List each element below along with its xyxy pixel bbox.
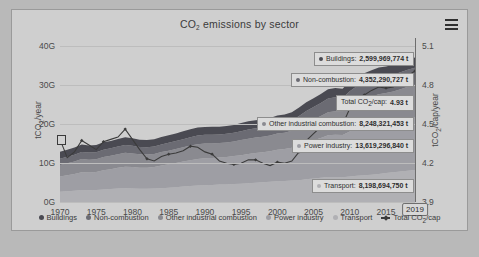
- legend-swatch: [333, 215, 338, 220]
- tooltip-value: 4,352,290,727 t: [359, 76, 408, 84]
- tooltip-value: 2,599,969,774 t: [359, 55, 408, 63]
- chart-title-subscript: 2: [196, 24, 200, 31]
- tooltip-transport: Transport:8,198,694,750 t: [312, 179, 414, 193]
- legend-swatch: [381, 215, 390, 220]
- left-axis-tick: 40G: [39, 41, 55, 51]
- tooltip-label: Total CO2/cap:: [341, 98, 387, 108]
- chart-title-post: emissions by sector: [200, 18, 299, 30]
- hamburger-menu-icon[interactable]: [445, 19, 458, 30]
- legend-item-other-industrial-combustion[interactable]: Other industrial combustion: [158, 213, 257, 222]
- legend-item-buildings[interactable]: Buildings: [39, 213, 77, 222]
- tooltip-color-dot: [297, 144, 301, 148]
- legend-label: Other industrial combustion: [166, 213, 257, 222]
- right-axis-tick: 4.5: [422, 119, 434, 129]
- left-axis-tick: 0G: [44, 197, 55, 207]
- tooltip-label: Other industrial combustion:: [269, 120, 356, 128]
- legend-item-total-co2-cap[interactable]: Total CO2/cap: [381, 213, 440, 224]
- tooltip-label: Non-combustion:: [303, 76, 356, 84]
- tooltip-power-industry: Power industry:13,619,296,840 t: [292, 139, 414, 153]
- tooltip-label: Power industry:: [304, 142, 352, 150]
- tooltip-color-dot: [262, 122, 266, 126]
- tooltip-value: 4.93 t: [390, 99, 408, 107]
- tooltip-label: Transport:: [324, 182, 356, 190]
- right-axis-tick: 5.1: [422, 41, 434, 51]
- chart-title: CO2 emissions by sector: [12, 18, 467, 30]
- gridline: [60, 202, 415, 203]
- legend-swatch: [266, 215, 271, 220]
- chart-title-pre: CO: [180, 18, 196, 30]
- legend-label: Non-combustion: [94, 213, 149, 222]
- chart-card: CO2 emissions by sector tCO2/year tCO2/c…: [11, 9, 468, 231]
- tooltip-label: Buildings:: [326, 55, 356, 63]
- series-start-marker: [57, 135, 66, 145]
- legend-label: Transport: [341, 213, 373, 222]
- legend-item-power-industry[interactable]: Power industry: [266, 213, 324, 222]
- plot-area[interactable]: 40G5.130G4.820G4.510G4.20G3.919701975198…: [60, 38, 415, 202]
- legend-label: Buildings: [47, 213, 77, 222]
- left-axis-tick: 10G: [39, 158, 55, 168]
- tooltip-non-combustion: Non-combustion:4,352,290,727 t: [291, 73, 414, 87]
- tooltip-color-dot: [317, 184, 321, 188]
- gridline: [60, 163, 415, 164]
- tooltip-value: 8,198,694,750 t: [359, 182, 408, 190]
- left-axis-tick: 30G: [39, 80, 55, 90]
- legend-item-non-combustion[interactable]: Non-combustion: [86, 213, 149, 222]
- legend-label: Power industry: [274, 213, 324, 222]
- tooltip-color-dot: [296, 78, 300, 82]
- legend-swatch: [86, 215, 91, 220]
- legend-swatch: [39, 215, 44, 220]
- tooltip-value: 13,619,296,840 t: [355, 142, 408, 150]
- tooltip-total-co2-cap: Total CO2/cap:4.93 t: [336, 95, 414, 111]
- left-axis-tick: 20G: [39, 119, 55, 129]
- tooltip-color-dot: [319, 57, 323, 61]
- legend-swatch: [158, 215, 163, 220]
- tooltip-buildings: Buildings:2,599,969,774 t: [314, 52, 414, 66]
- legend-label: Total CO2/cap: [393, 213, 440, 224]
- right-axis-tick: 4.8: [422, 80, 434, 90]
- tooltip-other-industrial-combustion: Other industrial combustion:8,248,321,45…: [257, 117, 414, 131]
- tooltip-value: 8,248,321,453 t: [359, 120, 408, 128]
- right-axis-tick: 4.2: [422, 158, 434, 168]
- crosshair-line: [415, 38, 416, 202]
- gridline: [60, 46, 415, 47]
- legend-item-transport[interactable]: Transport: [333, 213, 373, 222]
- chart-legend[interactable]: BuildingsNon-combustionOther industrial …: [12, 213, 467, 224]
